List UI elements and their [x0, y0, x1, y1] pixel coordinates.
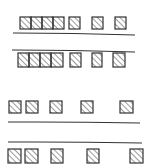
hatched-box — [70, 53, 81, 67]
diagram-layer — [8, 17, 143, 163]
hatched-box — [92, 17, 103, 29]
hatched-box — [69, 17, 80, 29]
hatched-box — [50, 101, 62, 113]
hatched-box — [26, 101, 38, 113]
hatched-box — [130, 149, 143, 163]
hatched-box — [113, 53, 125, 67]
hatched-box — [18, 53, 29, 67]
hatched-box — [20, 17, 31, 29]
divider-line — [13, 33, 135, 35]
hatched-box — [81, 101, 93, 113]
sketch-diagram — [0, 0, 155, 167]
hatched-box — [87, 149, 99, 163]
hatched-box — [53, 17, 64, 29]
hatched-box — [25, 149, 38, 163]
hatched-box — [40, 53, 51, 67]
bottom-group — [8, 101, 143, 163]
hatched-box — [9, 101, 21, 113]
hatched-box — [115, 17, 126, 29]
divider-line — [8, 142, 142, 143]
hatched-box — [120, 101, 133, 113]
hatched-box — [51, 149, 63, 163]
hatched-box — [42, 17, 53, 29]
hatched-box — [8, 149, 21, 163]
hatched-box — [31, 17, 42, 29]
top-group — [12, 17, 135, 67]
hatched-box — [29, 53, 40, 67]
hatched-box — [92, 53, 102, 67]
divider-line — [8, 122, 140, 123]
divider-line — [12, 50, 135, 52]
hatched-box — [51, 53, 63, 67]
